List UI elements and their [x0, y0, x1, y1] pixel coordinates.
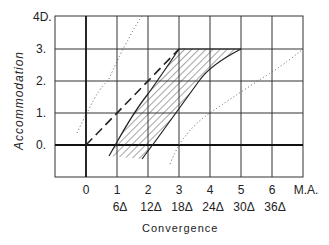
y-tick-2: 2.	[36, 74, 46, 88]
prism-tick-18: 18Δ	[171, 200, 192, 214]
prism-tick-24: 24Δ	[202, 200, 223, 214]
y-tick-3: 3.	[36, 42, 46, 56]
x-tick-1: 1	[114, 183, 121, 197]
x-axis-label: Convergence	[142, 222, 218, 234]
x-tick-4: 4	[207, 183, 214, 197]
x-tick-5: 5	[238, 183, 245, 197]
y-axis-label: Accommodation	[12, 51, 26, 151]
x-tick-0: 0	[83, 183, 90, 197]
y-tick-4: 4D.	[33, 10, 52, 24]
x-tick-labels-ma: 0 1 2 3 4 5 6 M.A.	[83, 183, 319, 197]
x-tick-6: 6	[269, 183, 276, 197]
prism-tick-30: 30Δ	[233, 200, 254, 214]
x-tick-labels-prism: 6Δ 12Δ 18Δ 24Δ 30Δ 36Δ	[113, 200, 286, 214]
y-tick-labels: 4D. 3. 2. 1. 0.	[33, 10, 52, 152]
x-tick-2: 2	[145, 183, 152, 197]
chart: 4D. 3. 2. 1. 0. Accommodation 0 1 2 3 4 …	[0, 0, 329, 245]
prism-tick-36: 36Δ	[264, 200, 285, 214]
x-tick-3: 3	[176, 183, 183, 197]
prism-tick-6: 6Δ	[113, 200, 128, 214]
x-tick-unit-ma: M.A.	[294, 183, 319, 197]
hatched-zone	[109, 49, 241, 159]
y-tick-0: 0.	[36, 138, 46, 152]
y-tick-1: 1.	[36, 106, 46, 120]
prism-tick-12: 12Δ	[140, 200, 161, 214]
